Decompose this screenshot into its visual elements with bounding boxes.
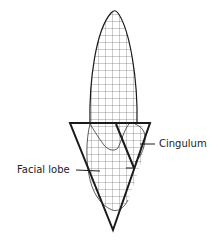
tooth-crown [80,8,150,218]
tooth-lobe-diagram [0,0,218,240]
cingulum-label: Cingulum [159,139,207,149]
facial-lobe-label: Facial lobe [17,165,70,175]
